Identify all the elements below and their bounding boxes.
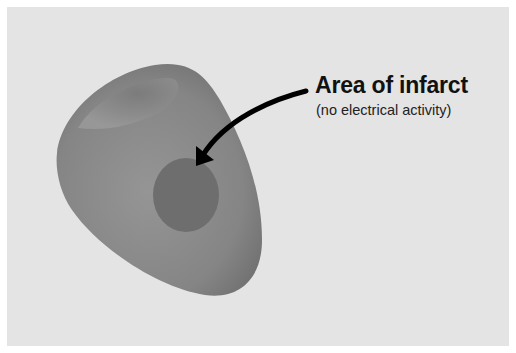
heart-illustration — [0, 0, 516, 353]
infarct-area — [153, 158, 219, 232]
infarct-label-title: Area of infarct — [315, 72, 468, 99]
infarct-label-subtitle: (no electrical activity) — [316, 102, 451, 118]
